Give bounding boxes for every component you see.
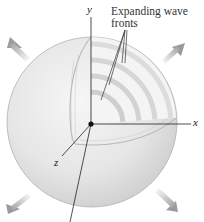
z-axis-label: z <box>54 156 58 168</box>
x-axis-label: x <box>193 116 198 128</box>
wave-diagram <box>0 0 204 222</box>
arrow-upper-left-icon <box>7 37 30 62</box>
wavefront-annotation: Expanding wave fronts <box>111 5 188 29</box>
annotation-line-2: fronts <box>111 17 188 29</box>
arrow-lower-right-icon <box>155 188 178 212</box>
y-axis-label: y <box>87 3 92 15</box>
point-source <box>88 121 93 126</box>
arrow-upper-right-icon <box>162 43 185 64</box>
arrow-lower-left-icon <box>6 193 31 214</box>
annotation-line-1: Expanding wave <box>111 5 188 17</box>
